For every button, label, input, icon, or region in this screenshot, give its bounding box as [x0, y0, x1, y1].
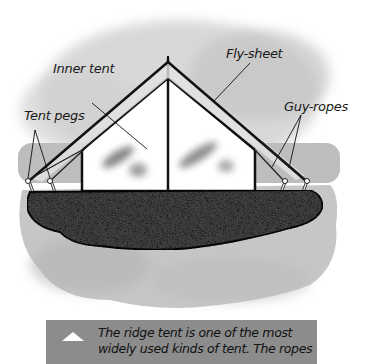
tent-diagram: Fly-sheet Inner tent Tent pegs Guy-ropes… — [0, 0, 367, 364]
label-guy-ropes: Guy-ropes — [284, 99, 348, 114]
label-inner-tent: Inner tent — [53, 61, 114, 76]
label-tent-pegs: Tent pegs — [24, 108, 84, 123]
triangle-up-icon — [62, 332, 84, 341]
caption-box: The ridge tent is one of the most widely… — [46, 320, 317, 364]
tent-illustration — [0, 0, 367, 364]
caption-text: The ridge tent is one of the most widely… — [98, 325, 313, 357]
label-fly-sheet: Fly-sheet — [226, 46, 282, 61]
